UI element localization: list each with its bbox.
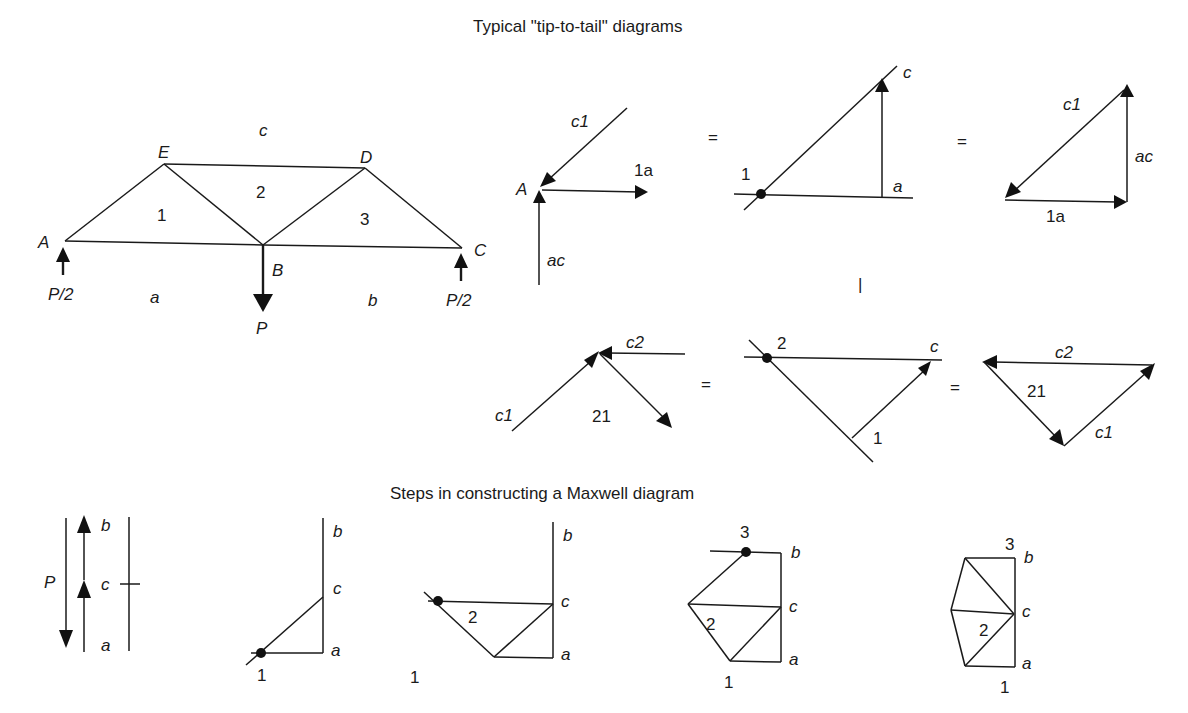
label-c: c (1022, 602, 1031, 621)
truss-diagram: A E D C B c 1 2 3 a b P/2 P/2 P (37, 121, 487, 338)
label-ac: ac (1135, 147, 1153, 166)
label-b: b (101, 516, 110, 535)
region-label-2: 2 (256, 183, 265, 202)
label-a: a (1022, 654, 1031, 673)
label-b: b (563, 526, 572, 545)
arrow-up-icon (454, 253, 468, 268)
title-maxwell: Steps in constructing a Maxwell diagram (390, 484, 694, 503)
label-A: A (515, 180, 527, 199)
load-label-right: P/2 (446, 291, 472, 310)
node-label-A: A (37, 233, 49, 252)
maxwell-step-3: 3 b c 2 a 1 (688, 523, 800, 692)
node-label-E: E (158, 143, 170, 162)
label-a: a (789, 650, 798, 669)
label-c2: c2 (1055, 343, 1074, 362)
label-1a: 1a (1046, 207, 1065, 226)
arrow-icon (656, 412, 672, 428)
label-2: 2 (706, 615, 715, 634)
region-label-b: b (368, 291, 377, 310)
tip-to-tail-row-1: c1 1a A ac = 1 c a = c1 ac 1a | (515, 63, 1153, 294)
point-marker (756, 189, 766, 199)
title-tip-to-tail: Typical "tip-to-tail" diagrams (473, 17, 683, 36)
label-1: 1 (724, 673, 733, 692)
label-b: b (791, 543, 800, 562)
point-marker (741, 547, 751, 557)
label-c: c (333, 579, 342, 598)
equals-sign: = (708, 128, 718, 147)
tip-to-tail-row-2: c2 c1 21 = 2 c 1 = c2 21 c1 (495, 333, 1155, 462)
label-1: 1 (410, 668, 419, 687)
arrow-up-icon (533, 190, 546, 203)
load-label-center: P (256, 319, 268, 338)
label-a: a (561, 645, 570, 664)
arrow-down-icon (253, 294, 273, 312)
label-1a: 1a (634, 161, 653, 180)
node-label-D: D (360, 148, 372, 167)
label-c1: c1 (571, 112, 589, 131)
arrow-right-icon (635, 185, 648, 199)
equals-sign: = (957, 132, 967, 151)
diagram-canvas: Typical "tip-to-tail" diagrams Steps in … (0, 0, 1188, 713)
label-2: 2 (468, 608, 477, 627)
arrow-right-icon (1114, 195, 1127, 209)
region-label-a: a (150, 288, 159, 307)
arrow-up-icon (77, 515, 91, 533)
maxwell-load-line: P b c a (44, 515, 140, 655)
region-label-1: 1 (157, 206, 166, 225)
equals-sign: = (950, 378, 960, 397)
label-ac: ac (547, 251, 565, 270)
label-c: c (903, 63, 912, 82)
equals-sign: = (701, 375, 711, 394)
node-label-B: B (272, 261, 283, 280)
arrow-up-icon (1120, 84, 1134, 97)
maxwell-step-4: 3 b c 2 a 1 (951, 535, 1033, 697)
label-21: 21 (1027, 382, 1046, 401)
label-21: 21 (592, 407, 611, 426)
arrow-icon (1005, 182, 1021, 198)
label-point-2: 2 (777, 334, 786, 353)
label-c1: c1 (495, 406, 513, 425)
arrow-down-icon (59, 630, 73, 648)
point-marker (433, 596, 443, 606)
label-1: 1 (1000, 678, 1009, 697)
arrow-up-icon (77, 580, 91, 598)
label-point-1: 1 (873, 429, 882, 448)
region-label-c: c (259, 121, 268, 140)
label-3: 3 (740, 523, 749, 542)
point-marker (762, 353, 772, 363)
load-label-left: P/2 (48, 285, 74, 304)
label-point-1: 1 (741, 165, 750, 184)
label-2: 2 (979, 621, 988, 640)
label-b: b (1024, 548, 1033, 567)
label-a: a (101, 636, 110, 655)
label-c: c (561, 592, 570, 611)
label-P: P (44, 573, 56, 592)
arrow-left-icon (598, 346, 612, 360)
separator: | (858, 275, 862, 294)
maxwell-step-2: 2 b c a 1 (410, 522, 572, 687)
maxwell-step-1: b c a 1 (246, 518, 342, 685)
label-c: c (930, 337, 939, 356)
node-label-C: C (474, 241, 487, 260)
label-c: c (101, 575, 110, 594)
label-c1: c1 (1095, 423, 1113, 442)
label-3: 3 (1005, 535, 1014, 554)
label-a: a (893, 177, 902, 196)
label-b: b (333, 522, 342, 541)
label-c1: c1 (1063, 95, 1081, 114)
label-1: 1 (257, 666, 266, 685)
label-c: c (789, 597, 798, 616)
region-label-3: 3 (360, 210, 369, 229)
point-marker (256, 648, 266, 658)
arrow-up-icon (56, 247, 70, 262)
label-c2: c2 (626, 333, 645, 352)
label-a: a (331, 641, 340, 660)
